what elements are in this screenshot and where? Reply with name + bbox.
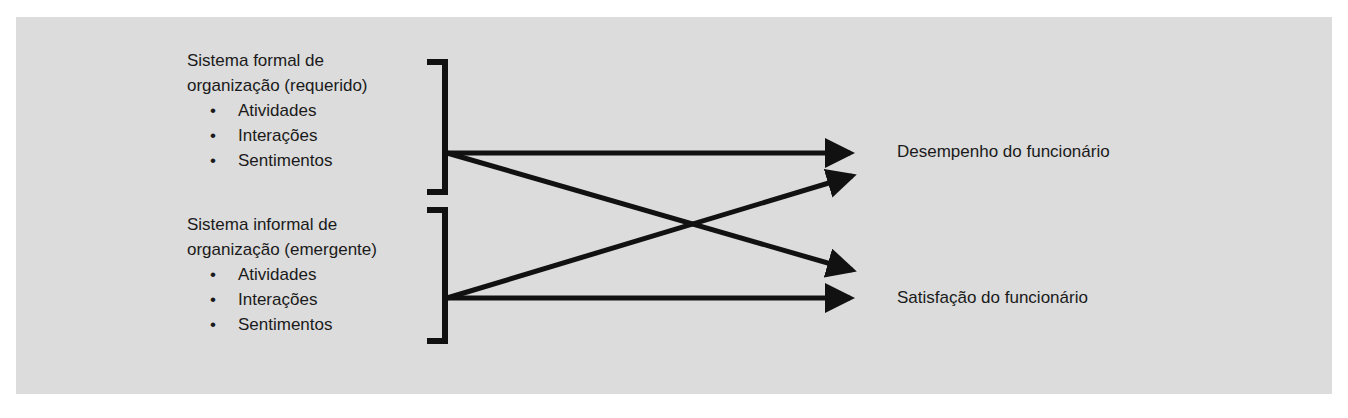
bracket-informal (427, 210, 445, 341)
output-satisfaction: Satisfação do funcionário (897, 288, 1088, 308)
bracket-formal (427, 62, 445, 192)
connector-lines (0, 0, 1348, 418)
arrow-informal-to-performance (447, 176, 852, 298)
output-performance: Desempenho do funcionário (897, 142, 1110, 162)
arrow-formal-to-satisfaction (447, 153, 852, 270)
